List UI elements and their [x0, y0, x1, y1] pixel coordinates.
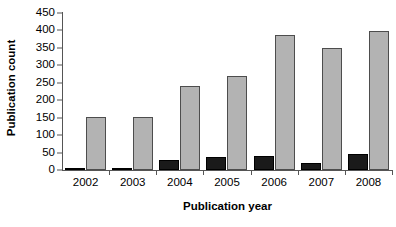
y-axis-tick-mark	[57, 47, 62, 48]
x-axis-tick-labels: 2002200320042005200620072008	[62, 177, 393, 195]
y-axis-tick-label: 300	[36, 60, 55, 72]
y-axis-title: Publication count	[0, 0, 22, 175]
y-axis-tick-mark	[57, 13, 62, 14]
bar-group	[203, 13, 250, 170]
y-axis-tick-label: 200	[36, 94, 55, 106]
x-axis-tick-mark	[203, 170, 204, 175]
bar-series-gray-2008	[369, 31, 389, 170]
x-axis-tick-mark	[345, 170, 346, 175]
x-axis-tick-mark	[298, 170, 299, 175]
bar-group	[345, 13, 392, 170]
bar-series-gray-2007	[322, 48, 342, 170]
bar-series-gray-2003	[133, 117, 153, 170]
plot-area	[62, 13, 392, 170]
bar-series-black-2004	[159, 160, 179, 170]
x-axis-tick-label: 2004	[167, 177, 193, 189]
y-axis-tick-label: 450	[36, 7, 55, 19]
bar-group	[156, 13, 203, 170]
bar-group	[62, 13, 109, 170]
y-axis-tick-mark	[57, 170, 62, 171]
bar-group	[251, 13, 298, 170]
x-axis-tick-mark	[109, 170, 110, 175]
x-axis-tick-mark	[156, 170, 157, 175]
x-axis-tick-mark	[251, 170, 252, 175]
y-axis-tick-mark	[57, 152, 62, 153]
bar-series-black-2008	[348, 154, 368, 170]
bar-series-black-2007	[301, 163, 321, 170]
bar-series-black-2003	[112, 168, 132, 170]
publication-count-bar-chart: Publication count 0501001502002503003504…	[0, 0, 396, 227]
x-axis-line	[62, 170, 393, 171]
y-axis-tick-label: 150	[36, 112, 55, 124]
bar-group	[109, 13, 156, 170]
y-axis-tick-mark	[57, 65, 62, 66]
bar-series-gray-2005	[227, 76, 247, 170]
bar-series-gray-2002	[86, 117, 106, 170]
x-axis-tick-label: 2005	[214, 177, 240, 189]
y-axis-tick-label: 400	[36, 25, 55, 37]
x-axis-title: Publication year	[62, 200, 393, 212]
bar-series-gray-2006	[275, 35, 295, 170]
y-axis-tick-label: 350	[36, 42, 55, 54]
bar-series-black-2005	[206, 157, 226, 170]
x-axis-tick-mark	[392, 170, 393, 175]
y-axis-tick-label: 50	[42, 147, 55, 159]
y-axis-tick-mark	[57, 117, 62, 118]
bar-series-black-2002	[65, 168, 85, 170]
x-axis-tick-label: 2007	[308, 177, 334, 189]
x-axis-tick-label: 2002	[73, 177, 99, 189]
bar-group	[298, 13, 345, 170]
x-axis-tick-label: 2003	[120, 177, 146, 189]
y-axis-tick-label: 250	[36, 77, 55, 89]
y-axis-title-label: Publication count	[5, 39, 17, 135]
y-axis-tick-labels: 050100150200250300350400450	[22, 13, 59, 170]
y-axis-tick-mark	[57, 135, 62, 136]
x-axis-tick-label: 2008	[356, 177, 382, 189]
y-axis-tick-label: 0	[49, 164, 55, 176]
bar-series-gray-2004	[180, 86, 200, 170]
y-axis-tick-mark	[57, 82, 62, 83]
bar-series-black-2006	[254, 156, 274, 170]
x-axis-tick-label: 2006	[261, 177, 287, 189]
y-axis-tick-label: 100	[36, 129, 55, 141]
y-axis-tick-mark	[57, 100, 62, 101]
y-axis-tick-mark	[57, 30, 62, 31]
